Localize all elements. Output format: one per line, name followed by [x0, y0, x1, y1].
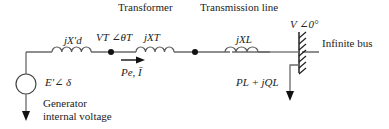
bus-hatch: [299, 32, 306, 74]
transmission-line-label: Transmission line: [200, 1, 278, 13]
generator-label-2: internal voltage: [43, 110, 112, 122]
transformer-label: Transformer: [118, 1, 173, 13]
line-coil: [225, 47, 258, 52]
ground-arrow-icon: [22, 111, 30, 121]
smib-diagram: Transformer Transmission line Infinite b…: [0, 0, 389, 129]
gen-emf-label: E′∠ δ: [44, 76, 72, 88]
line-node: [192, 49, 198, 55]
load-arrow-icon: [286, 91, 294, 101]
power-current-label: Pe, Ī: [120, 66, 143, 78]
load-lead: [290, 65, 299, 92]
transformer-reactance-label: jXT: [142, 31, 161, 43]
gen-reactance-label: jX′d: [62, 34, 82, 46]
bus-voltage-label: V ∠0°: [290, 18, 319, 30]
transformer-coil: [136, 47, 174, 52]
generator-label: Generator: [43, 97, 87, 109]
terminal-voltage-label: VT ∠θT: [96, 31, 133, 43]
terminal-node: [108, 49, 114, 55]
generator-reactance-coil: [52, 47, 91, 52]
infinite-bus-label: Infinite bus: [322, 37, 372, 49]
generator-source-icon: [16, 74, 36, 94]
line-reactance-label: jXL: [234, 33, 252, 45]
load-power-label: PL + jQL: [235, 76, 279, 88]
